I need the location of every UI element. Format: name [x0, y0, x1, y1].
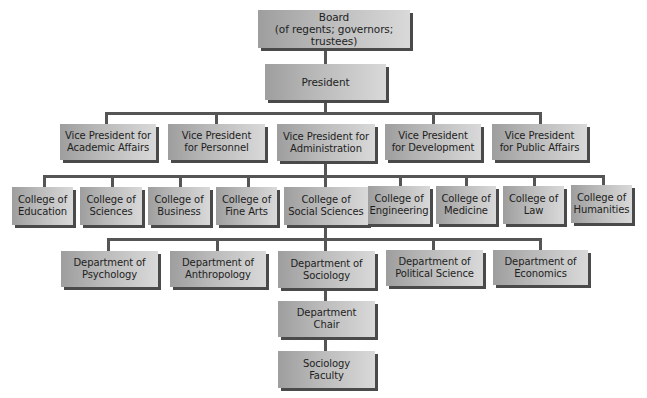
node-dept-economics: Department of Economics: [493, 250, 588, 285]
connector-col4: [247, 175, 250, 187]
node-president: President: [265, 64, 386, 100]
node-sociology-faculty: Sociology Faculty: [278, 351, 375, 388]
node-college-law: College of Law: [503, 186, 564, 224]
node-dept-psychology: Department of Psychology: [61, 251, 158, 287]
connector-board-president: [324, 48, 327, 64]
connector-vp-bus: [105, 112, 539, 115]
connector-col1: [43, 175, 46, 187]
connector-col2: [111, 175, 114, 187]
node-college-fine-arts: College of Fine Arts: [216, 187, 277, 225]
node-college-social-sciences: College of Social Sciences: [284, 187, 368, 225]
node-college-engineering: College of Engineering: [368, 186, 430, 224]
node-vp-development: Vice President for Development: [385, 124, 481, 160]
connector-vp5: [539, 112, 542, 124]
node-board: Board (of regents; governors; trustees): [258, 10, 410, 48]
connector-col3: [179, 175, 182, 187]
node-college-sciences: College of Sciences: [80, 187, 142, 225]
node-vp-administration: Vice President for Administration: [277, 124, 375, 161]
node-college-education: College of Education: [12, 187, 73, 225]
node-college-medicine: College of Medicine: [436, 186, 496, 224]
node-vp-academic-affairs: Vice President for Academic Affairs: [60, 124, 156, 160]
node-dept-political-science: Department of Political Science: [386, 250, 483, 286]
connector-dept-bus: [107, 238, 541, 241]
node-college-humanities: College of Humanities: [571, 185, 632, 223]
connector-college-bus: [43, 175, 605, 178]
connector-vp4: [432, 112, 435, 124]
node-college-business: College of Business: [148, 187, 210, 225]
connector-vp1: [105, 112, 108, 124]
node-vp-personnel: Vice President for Personnel: [168, 124, 265, 160]
connector-dept2: [216, 238, 219, 251]
connector-chair-faculty: [324, 337, 327, 351]
node-dept-anthropology: Department of Anthropology: [170, 251, 266, 287]
connector-dept1: [107, 238, 110, 251]
node-department-chair: Department Chair: [278, 301, 375, 337]
node-dept-sociology: Department of Sociology: [278, 251, 375, 288]
connector-soc-chair: [324, 288, 327, 301]
node-vp-public-affairs: Vice President for Public Affairs: [492, 124, 587, 160]
connector-vp2: [215, 112, 218, 124]
